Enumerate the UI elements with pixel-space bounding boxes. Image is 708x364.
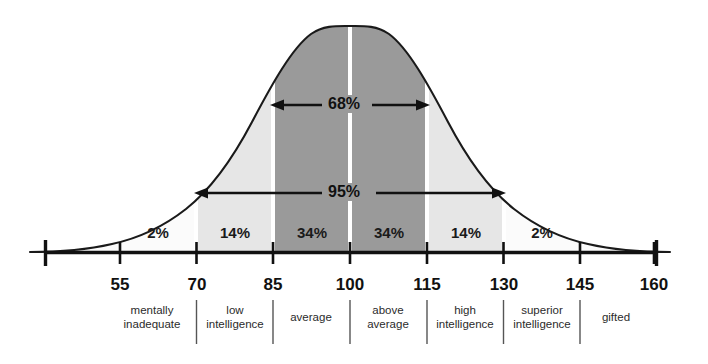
category-high-intelligence: high intelligence: [426, 303, 504, 331]
band-label-34-left: 34%: [274, 224, 350, 241]
category-gifted: gifted: [580, 310, 652, 324]
category-line: high: [426, 303, 504, 317]
band-34-right: [352, 0, 425, 252]
category-line: above: [349, 303, 427, 317]
band-label-14-left: 14%: [197, 224, 273, 241]
category-line: mentally: [112, 303, 192, 317]
axis-tick-label-130: 130: [474, 275, 534, 295]
bell-curve-chart: 2% 14% 34% 34% 14% 2% 68% 95% 55 70 85 1…: [0, 0, 708, 364]
category-line: average: [349, 317, 427, 331]
category-line: intelligence: [426, 317, 504, 331]
band-14-left: [198, 0, 271, 252]
band-label-2-right: 2%: [504, 224, 580, 241]
category-line: average: [272, 310, 350, 324]
band-34-left: [275, 0, 348, 252]
category-mentally-inadequate: mentally inadequate: [112, 303, 192, 331]
category-low-intelligence: low intelligence: [195, 303, 275, 331]
band-14-right: [429, 0, 502, 252]
axis-tick-label-55: 55: [90, 275, 150, 295]
band-divider-70: [194, 0, 198, 252]
distribution-bands: [0, 0, 708, 252]
axis-tick-label-85: 85: [243, 275, 303, 295]
band-label-14-right: 14%: [428, 224, 504, 241]
category-line: intelligence: [195, 317, 275, 331]
category-line: superior: [503, 303, 581, 317]
axis-tick-label-70: 70: [167, 275, 227, 295]
band-label-34-right: 34%: [351, 224, 427, 241]
category-line: intelligence: [503, 317, 581, 331]
band-divider-100: [348, 0, 352, 252]
axis-tick-label-160: 160: [624, 275, 684, 295]
axis-tick-label-115: 115: [397, 275, 457, 295]
band-label-2-left: 2%: [120, 224, 196, 241]
band-divider-85: [271, 0, 275, 252]
category-superior-intelligence: superior intelligence: [503, 303, 581, 331]
axis-tick-label-145: 145: [550, 275, 610, 295]
category-line: inadequate: [112, 317, 192, 331]
category-above-average: above average: [349, 303, 427, 331]
category-line: gifted: [580, 310, 652, 324]
category-line: low: [195, 303, 275, 317]
band-divider-115: [425, 0, 429, 252]
span-label-68: 68%: [322, 95, 366, 113]
axis-tick-label-100: 100: [320, 275, 380, 295]
span-label-95: 95%: [322, 183, 366, 201]
band-divider-130: [502, 0, 506, 252]
category-average: average: [272, 310, 350, 324]
